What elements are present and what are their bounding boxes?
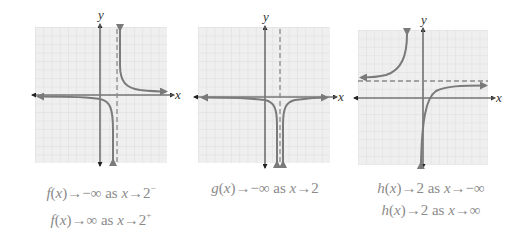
caption-line: f(x)→−∞ as x→2− (6, 177, 196, 204)
x-axis-label: x (495, 90, 502, 105)
graph-g-panel: y x (170, 0, 360, 170)
caption-line: h(x)→2 as x→−∞ (336, 177, 526, 199)
y-axis-label: y (261, 9, 269, 24)
caption-line: g(x)→−∞ as x→2 (170, 177, 360, 199)
caption-h: h(x)→2 as x→−∞ h(x)→2 as x→∞ (336, 177, 526, 221)
graph-f: y x (0, 0, 190, 170)
y-axis-label: y (419, 12, 427, 27)
grid (198, 27, 330, 163)
x-axis-label: x (337, 89, 344, 104)
graph-g: y x (170, 0, 360, 170)
caption-g: g(x)→−∞ as x→2 (170, 177, 360, 199)
graph-h: y x (346, 0, 526, 170)
graph-f-panel: y x (0, 0, 190, 170)
y-axis-label: y (96, 7, 104, 22)
caption-line: h(x)→2 as x→∞ (336, 199, 526, 221)
caption-line: f(x)→∞ as x→2+ (6, 204, 196, 231)
graph-h-panel: y x (346, 0, 526, 170)
caption-f: f(x)→−∞ as x→2− f(x)→∞ as x→2+ (6, 177, 196, 231)
